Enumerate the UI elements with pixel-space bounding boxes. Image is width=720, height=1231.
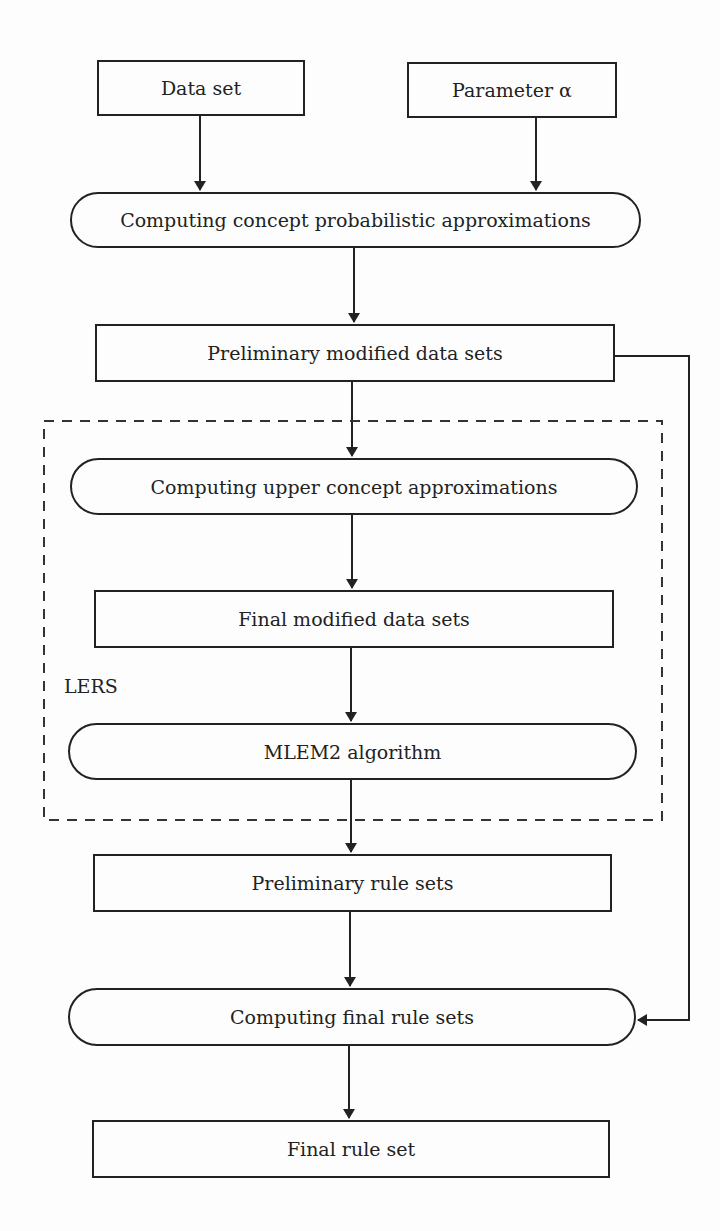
flowchart: Data set Parameter α Computing concept p…: [0, 0, 720, 1231]
data-set-node: Data set: [97, 60, 305, 116]
final-modified-node: Final modified data sets: [94, 590, 614, 648]
node-label: Computing upper concept approximations: [151, 476, 558, 498]
node-label: Parameter α: [452, 79, 572, 101]
final-rule-set-node: Final rule set: [92, 1120, 610, 1178]
node-label: Computing concept probabilistic approxim…: [120, 209, 591, 231]
computing-final-rules-node: Computing final rule sets: [68, 988, 636, 1046]
node-label: Final modified data sets: [238, 608, 470, 630]
node-label: Computing final rule sets: [230, 1006, 474, 1028]
parameter-node: Parameter α: [407, 62, 617, 118]
computing-prob-approx-node: Computing concept probabilistic approxim…: [70, 192, 641, 248]
node-label: MLEM2 algorithm: [264, 741, 442, 763]
node-label: Preliminary rule sets: [252, 872, 454, 894]
lers-label: LERS: [64, 675, 118, 697]
prelim-modified-node: Preliminary modified data sets: [95, 324, 615, 382]
computing-upper-approx-node: Computing upper concept approximations: [70, 458, 638, 515]
mlem2-node: MLEM2 algorithm: [68, 723, 637, 780]
prelim-rules-node: Preliminary rule sets: [93, 854, 612, 912]
node-label: Preliminary modified data sets: [207, 342, 502, 364]
node-label: Data set: [161, 77, 241, 99]
node-label: Final rule set: [287, 1138, 415, 1160]
